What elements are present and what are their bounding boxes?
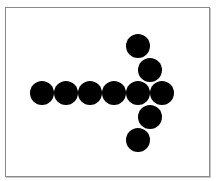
circle-dot <box>126 81 150 105</box>
circle-dot <box>138 105 162 129</box>
circle-dot <box>30 81 54 105</box>
circle-dot <box>138 58 162 82</box>
circle-dot <box>126 128 150 152</box>
circle-dot <box>102 81 126 105</box>
circle-dot <box>150 81 174 105</box>
circle-dot <box>54 81 78 105</box>
circle-dot <box>126 34 150 58</box>
circle-dot <box>78 81 102 105</box>
